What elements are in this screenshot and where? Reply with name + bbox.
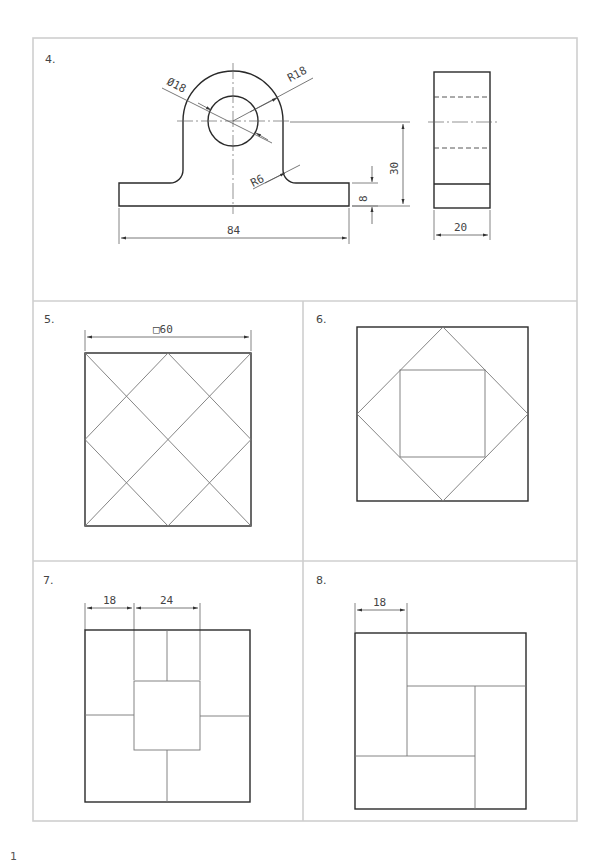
panel-8-number: 8.	[316, 574, 327, 587]
left-offset-label: 18	[373, 596, 386, 609]
base-height-label: 8	[357, 195, 370, 202]
center-height-label: 30	[388, 162, 401, 175]
side-width-label: 20	[454, 221, 467, 234]
center-width-label: 24	[160, 594, 174, 607]
square-size-label: □60	[153, 323, 173, 336]
center-square	[134, 681, 200, 750]
fillet-radius-label: R6	[248, 172, 266, 190]
inner-square	[400, 370, 485, 457]
panel-5: 5. □60	[44, 313, 251, 526]
panel-6: 6.	[316, 313, 528, 501]
panel-8: 8. 18	[316, 574, 526, 809]
square-6-outline	[357, 327, 528, 501]
panel-4-number: 4.	[45, 53, 56, 66]
panel-7: 7. 18 24	[43, 574, 250, 802]
overall-width-label: 84	[227, 224, 241, 237]
bracket-side-view	[434, 72, 490, 208]
square-8-outline	[355, 633, 526, 809]
page-number: 1	[10, 850, 17, 863]
diameter-label: Ø18	[165, 75, 189, 96]
pinwheel-divisions	[355, 633, 526, 809]
panel-5-number: 5.	[44, 313, 55, 326]
panel-6-number: 6.	[316, 313, 327, 326]
panel-7-number: 7.	[43, 574, 54, 587]
panel-4: 4. Ø18 R18 R6 84 8	[45, 53, 497, 244]
outer-radius-label: R18	[285, 64, 309, 85]
bracket-front-view	[119, 71, 349, 206]
diamond-lattice	[85, 353, 251, 526]
left-offset-label: 18	[103, 594, 116, 607]
rotated-square	[357, 327, 528, 501]
sheet-frame	[33, 38, 577, 821]
